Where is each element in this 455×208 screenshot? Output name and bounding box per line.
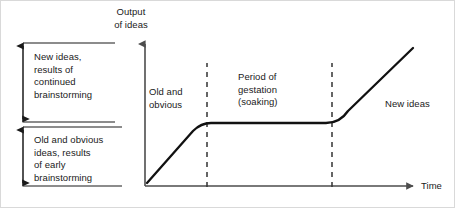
idea-output-curve — [147, 48, 413, 183]
bracket-upper-label: New ideas, results of continued brainsto… — [34, 51, 108, 101]
phase-label-new-ideas: New ideas — [385, 98, 447, 111]
phase-label-period-of-gestation: Period of gestation (soaking) — [238, 71, 310, 109]
phase-label-old-and-obvious: Old and obvious — [149, 86, 205, 111]
diagram-canvas: Output of ideas Time New ideas, results … — [0, 0, 455, 208]
x-axis-title: Time — [421, 180, 442, 193]
y-axis-title: Output of ideas — [99, 6, 163, 31]
bracket-lower-label: Old and obvious ideas, results of early … — [34, 134, 114, 184]
